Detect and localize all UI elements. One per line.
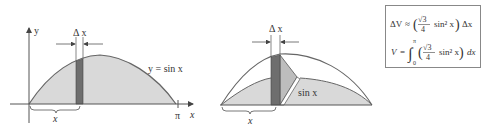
brace-x-label: x: [52, 113, 58, 124]
x-axis-label: x: [189, 109, 195, 120]
formula-box: ΔV ≈ ( √3 4 sin² x ) Δx V = ∫ π 0 ( √3 4…: [386, 6, 481, 68]
term: sin² x: [434, 19, 454, 29]
dark-strip: [271, 55, 280, 105]
paren-close: ): [459, 45, 464, 61]
left-figure: y x π Δ x x y = sin x: [10, 25, 195, 124]
right-figure: Δ x sin x x: [220, 23, 372, 126]
paren-close: ): [455, 17, 460, 33]
x-brace: [30, 106, 80, 113]
differential: dx: [467, 47, 476, 57]
x-brace: [222, 107, 276, 114]
coef-numerator: √3: [423, 43, 431, 52]
diagram-canvas: y x π Δ x x y = sin x Δ x sin x x: [0, 0, 486, 130]
relation: ≈: [405, 19, 410, 29]
differential: Δx: [462, 19, 473, 29]
coef-denominator: 4: [421, 25, 425, 34]
relation: =: [400, 47, 405, 57]
term: sin² x: [439, 47, 459, 57]
brace-x-label: x: [247, 115, 253, 126]
pi-label: π: [175, 110, 180, 121]
curve-label: y = sin x: [148, 63, 183, 74]
delta-x-label: Δ x: [269, 23, 282, 34]
integral-lower: 0: [413, 60, 416, 66]
coef-numerator: √3: [418, 15, 426, 24]
y-axis-label: y: [34, 25, 39, 36]
integral-upper: π: [413, 38, 416, 44]
delta-x-label: Δ x: [73, 27, 86, 38]
coef-denominator: 4: [426, 53, 430, 62]
dark-strip: [76, 59, 83, 104]
lhs: ΔV: [390, 19, 403, 29]
sin-x-label: sin x: [298, 87, 317, 98]
